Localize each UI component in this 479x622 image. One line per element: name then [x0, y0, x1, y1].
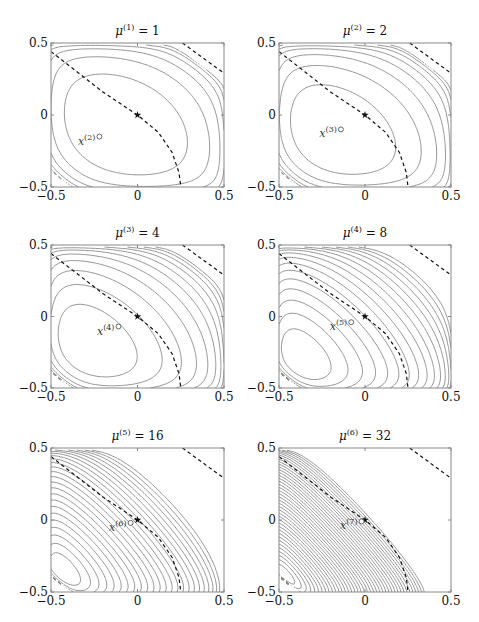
y-tick-label: −0.5 — [247, 585, 276, 599]
y-tick-label: 0.5 — [257, 441, 276, 455]
x-tick-label: 0.5 — [441, 189, 460, 203]
y-tick-label: −0.5 — [19, 180, 48, 194]
y-tick-label: 0.5 — [257, 36, 276, 50]
x-tick-label: 0 — [361, 390, 369, 404]
x-tick-label: 0.5 — [214, 594, 233, 608]
y-tick-label: −0.5 — [247, 180, 276, 194]
central-path-upper — [410, 245, 451, 275]
x-tick-label: 0 — [134, 390, 142, 404]
central-path — [279, 52, 408, 187]
central-path-upper — [410, 43, 451, 73]
y-tick-label: 0.5 — [29, 441, 48, 455]
panel-title: μ(6) = 32 — [339, 428, 391, 443]
y-tick-label: 0 — [40, 310, 48, 324]
iterate-circle-icon — [128, 520, 133, 525]
contour-panel-6: −0.500.50.50−0.5μ(6) = 32x(7) — [247, 428, 461, 608]
central-path-upper — [410, 448, 451, 478]
panel-title: μ(5) = 16 — [111, 428, 163, 443]
iterate-circle-icon — [359, 519, 364, 524]
iterate-label: x(3) — [319, 125, 337, 140]
iterate-circle-icon — [116, 324, 121, 329]
optimum-star-icon — [134, 313, 142, 320]
iterate-label: x(2) — [78, 133, 96, 148]
central-path-upper — [182, 43, 224, 73]
y-tick-label: 0 — [268, 310, 276, 324]
x-tick-label: 0 — [134, 594, 142, 608]
y-tick-label: −0.5 — [19, 585, 48, 599]
y-tick-label: −0.5 — [247, 381, 276, 395]
x-tick-label: 0.5 — [214, 390, 233, 404]
x-tick-label: 0 — [361, 594, 369, 608]
y-tick-label: 0 — [40, 513, 48, 527]
iterate-label: x(4) — [97, 323, 115, 338]
x-tick-label: 0.5 — [441, 390, 460, 404]
y-tick-label: −0.5 — [19, 381, 48, 395]
contour-figure: −0.500.50.50−0.5μ(1) = 1x(2)−0.500.50.50… — [0, 0, 479, 622]
iterate-label: x(5) — [330, 318, 348, 333]
x-tick-label: 0.5 — [441, 594, 460, 608]
contour-panel-1: −0.500.50.50−0.5μ(1) = 1x(2) — [19, 23, 234, 203]
central-path-upper — [182, 245, 224, 275]
panel-title: μ(3) = 4 — [115, 225, 160, 240]
contour-panel-3: −0.500.50.50−0.5μ(3) = 4x(4) — [19, 225, 234, 404]
contour-panel-4: −0.500.50.50−0.5μ(4) = 8x(5) — [247, 225, 461, 404]
y-tick-label: 0 — [40, 108, 48, 122]
y-tick-label: 0.5 — [257, 238, 276, 252]
central-path-upper — [182, 448, 224, 478]
contour-panel-2: −0.500.50.50−0.5μ(2) = 2x(3) — [247, 23, 461, 203]
panel-title: μ(1) = 1 — [115, 23, 159, 38]
y-tick-label: 0.5 — [29, 238, 48, 252]
panel-title: μ(4) = 8 — [343, 225, 387, 240]
iterate-circle-icon — [97, 134, 102, 139]
x-tick-label: 0 — [134, 189, 142, 203]
iterate-circle-icon — [338, 127, 343, 132]
y-tick-label: 0.5 — [29, 36, 48, 50]
y-tick-label: 0 — [268, 108, 276, 122]
iterate-label: x(7) — [340, 517, 358, 532]
central-path — [51, 52, 181, 187]
iterate-circle-icon — [349, 320, 354, 325]
contour-panel-5: −0.500.50.50−0.5μ(5) = 16x(6) — [19, 428, 234, 608]
panel-title: μ(2) = 2 — [343, 23, 387, 38]
y-tick-label: 0 — [268, 513, 276, 527]
optimum-star-icon — [361, 111, 369, 118]
x-tick-label: 0.5 — [214, 189, 233, 203]
x-tick-label: 0 — [361, 189, 369, 203]
